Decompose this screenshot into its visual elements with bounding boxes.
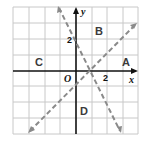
- line-1: [59, 8, 120, 131]
- region-label-a: A: [122, 56, 130, 68]
- x-tick-label: 2: [103, 73, 108, 83]
- line-1-arrow-bottom-icon: [117, 126, 122, 133]
- region-label-b: B: [95, 25, 103, 37]
- y-tick-label: 2: [67, 35, 72, 45]
- y-axis-label: y: [80, 6, 86, 17]
- axes: [13, 7, 138, 134]
- origin-label: O: [64, 73, 71, 84]
- x-axis-label: x: [128, 74, 134, 85]
- region-label-d: D: [80, 105, 88, 117]
- region-label-c: C: [35, 56, 43, 68]
- coordinate-plane: y x O 2 2 A B C D: [0, 0, 142, 146]
- y-axis-arrow-icon: [73, 7, 79, 14]
